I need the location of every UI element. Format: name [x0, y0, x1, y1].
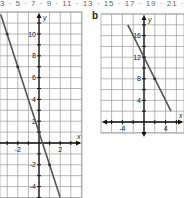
y-tick-label: 4 [32, 96, 36, 103]
y-tick-label: 8 [32, 52, 36, 59]
grid-frame [101, 14, 184, 133]
data-point [48, 163, 51, 166]
data-point [38, 131, 41, 134]
axes [102, 15, 183, 137]
y-tick-label: -4 [30, 183, 36, 190]
data-point [16, 65, 19, 68]
x-axis-label: x [76, 133, 81, 140]
x-tick-label: 4 [164, 125, 168, 132]
x-axis-neg-arrow-icon [102, 120, 107, 125]
y-axis-label: y [147, 16, 152, 24]
grid-frame [0, 12, 82, 198]
x-axis-label: x [178, 112, 183, 119]
y-tick-label: 4 [137, 97, 141, 104]
axes [0, 13, 81, 198]
y-axis-arrow-icon [142, 15, 147, 20]
y-tick-label: 10 [28, 31, 36, 38]
x-tick-label: -4 [119, 125, 125, 132]
y-axis-arrow-icon [37, 13, 42, 18]
data-point [153, 77, 156, 80]
chart-panel-a: -4-2246810-22xy [0, 12, 82, 198]
y-tick-label: 8 [137, 75, 141, 82]
y-axis-label: y [42, 14, 47, 22]
y-tick-label: 12 [133, 54, 141, 61]
grid-lines [101, 14, 184, 133]
data-point [143, 56, 146, 59]
chart-canvas: -4-2246810-22xy481216-44xy [0, 0, 184, 198]
x-axis-arrow-icon [76, 141, 81, 146]
y-tick-label: 6 [32, 74, 36, 81]
chart-panel-b: 481216-44xy [101, 14, 184, 137]
data-point [6, 33, 9, 36]
x-tick-label: -2 [15, 146, 21, 153]
plotted-line [1, 14, 60, 197]
x-tick-label: 2 [58, 146, 62, 153]
x-axis-arrow-icon [178, 120, 183, 125]
panel-b-label: b [92, 10, 98, 21]
y-tick-label: -2 [30, 161, 36, 168]
grid-lines [0, 12, 82, 198]
